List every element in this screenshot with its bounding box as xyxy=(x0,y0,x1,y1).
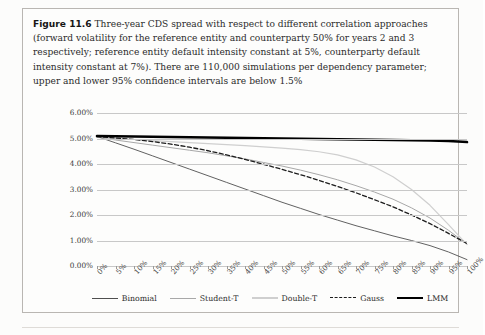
gridline xyxy=(97,241,467,242)
legend-swatch-icon xyxy=(330,294,356,302)
figure-label: Figure 11.6 xyxy=(33,19,92,29)
y-axis-tick-label: 1.00% xyxy=(53,237,93,245)
gridline xyxy=(97,215,467,216)
gridline xyxy=(97,164,467,165)
legend-item[interactable]: Gauss xyxy=(330,294,384,303)
y-axis-tick-label: 5.00% xyxy=(53,135,93,143)
figure-container: Figure 11.6 Three-year CDS spread with r… xyxy=(22,8,459,313)
gridline xyxy=(97,113,467,114)
legend-label: Gauss xyxy=(360,294,384,303)
legend-swatch-icon xyxy=(92,294,118,302)
y-axis: 6.00%5.00%4.00%3.00%2.00%1.00%0.00% xyxy=(43,113,93,266)
y-axis-tick-label: 0.00% xyxy=(53,262,93,270)
legend-label: Double-T xyxy=(282,294,318,303)
legend-label: LMM xyxy=(427,294,448,303)
legend-item[interactable]: Binomial xyxy=(92,294,157,303)
gridline xyxy=(97,190,467,191)
legend-swatch-icon xyxy=(252,294,278,302)
y-axis-tick-label: 6.00% xyxy=(53,109,93,117)
series-line xyxy=(97,137,467,244)
legend-swatch-icon xyxy=(170,294,196,302)
legend-swatch-icon xyxy=(397,294,423,302)
y-axis-tick-label: 4.00% xyxy=(53,160,93,168)
legend-item[interactable]: Double-T xyxy=(252,294,318,303)
plot-area xyxy=(97,113,467,266)
series-line xyxy=(97,137,467,244)
chart-legend: BinomialStudent-TDouble-TGaussLMM xyxy=(87,291,453,305)
legend-item[interactable]: LMM xyxy=(397,294,448,303)
y-axis-tick-label: 3.00% xyxy=(53,186,93,194)
chart: 6.00%5.00%4.00%3.00%2.00%1.00%0.00% 0%5%… xyxy=(29,101,453,306)
legend-item[interactable]: Student-T xyxy=(170,294,239,303)
y-axis-tick-label: 2.00% xyxy=(53,211,93,219)
legend-label: Binomial xyxy=(122,294,157,303)
x-axis-tick-label: 100% xyxy=(465,255,485,276)
figure-caption: Figure 11.6 Three-year CDS spread with r… xyxy=(33,17,445,88)
page-divider xyxy=(22,327,459,328)
legend-label: Student-T xyxy=(200,294,239,303)
figure-caption-text: Three-year CDS spread with respect to di… xyxy=(33,19,428,86)
gridline xyxy=(97,139,467,140)
